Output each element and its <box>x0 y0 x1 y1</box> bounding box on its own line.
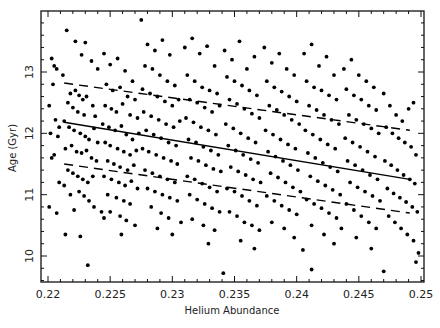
data-point <box>93 114 97 118</box>
data-point <box>325 55 329 59</box>
data-point <box>77 190 81 194</box>
data-point <box>239 239 243 243</box>
data-point <box>310 43 314 47</box>
data-point <box>110 177 114 181</box>
data-point <box>55 211 59 215</box>
y-axis: 10111213 <box>23 23 424 281</box>
data-point <box>295 212 299 216</box>
data-point <box>129 179 133 183</box>
data-point <box>215 92 219 96</box>
data-point <box>318 138 322 142</box>
data-point <box>326 143 330 147</box>
data-point <box>376 177 380 181</box>
data-point <box>230 58 234 62</box>
data-point <box>126 168 130 172</box>
data-point <box>245 67 249 71</box>
data-point <box>75 150 79 154</box>
data-point <box>243 220 247 224</box>
data-point <box>322 113 326 117</box>
data-point <box>167 216 171 220</box>
data-point <box>208 185 212 189</box>
data-point <box>208 89 212 93</box>
data-point <box>292 236 296 240</box>
x-tick-label: 0.23 <box>160 288 185 301</box>
data-point <box>313 156 317 160</box>
data-point <box>254 141 258 145</box>
data-point <box>72 208 76 212</box>
x-tick-label: 0.25 <box>409 288 434 301</box>
data-point <box>148 92 152 96</box>
data-point <box>400 119 404 123</box>
data-point <box>71 106 75 110</box>
data-point <box>276 176 280 180</box>
data-point <box>359 98 363 102</box>
data-point <box>241 153 245 157</box>
data-point <box>50 156 54 160</box>
data-point <box>72 128 76 132</box>
data-point <box>136 187 140 191</box>
data-point <box>258 116 262 120</box>
data-point <box>190 217 194 221</box>
data-point <box>87 138 91 142</box>
data-point <box>294 147 298 151</box>
data-point <box>52 64 56 68</box>
data-point <box>81 177 85 181</box>
data-point <box>317 64 321 68</box>
data-point <box>69 92 73 96</box>
data-point <box>312 85 316 89</box>
data-point <box>66 168 70 172</box>
data-point <box>327 211 331 215</box>
data-point <box>205 44 209 48</box>
data-point <box>387 214 391 218</box>
data-point <box>185 73 189 77</box>
data-point <box>272 199 276 203</box>
data-point <box>221 271 225 275</box>
data-point <box>146 187 150 191</box>
data-point <box>192 120 196 124</box>
data-point <box>116 57 120 61</box>
data-point <box>151 67 155 71</box>
data-point <box>133 223 137 227</box>
data-point <box>282 113 286 117</box>
data-point <box>255 93 259 97</box>
data-point <box>178 119 182 123</box>
data-point <box>311 133 315 137</box>
data-point <box>67 125 71 129</box>
data-point <box>357 73 361 77</box>
data-point <box>177 98 181 102</box>
data-point <box>352 93 356 97</box>
data-point <box>266 150 270 154</box>
data-point <box>403 141 407 145</box>
data-point <box>320 89 324 93</box>
data-point <box>83 41 87 45</box>
data-point <box>64 233 68 237</box>
data-point <box>213 64 217 68</box>
data-point <box>235 214 239 218</box>
data-point <box>382 269 386 273</box>
data-point <box>343 136 347 140</box>
data-point <box>203 106 207 110</box>
data-point <box>282 227 286 231</box>
data-point <box>338 193 342 197</box>
data-point <box>358 145 362 149</box>
data-point <box>258 228 262 232</box>
data-point <box>122 150 126 154</box>
data-point <box>359 214 363 218</box>
data-point <box>124 219 128 223</box>
data-point <box>405 233 409 237</box>
data-point <box>158 73 162 77</box>
data-point <box>302 52 306 56</box>
data-point <box>51 82 55 86</box>
data-point <box>65 28 69 32</box>
data-point <box>82 194 86 198</box>
data-point <box>55 67 59 71</box>
data-point <box>417 251 421 255</box>
data-point <box>188 193 192 197</box>
data-point <box>147 150 151 154</box>
y-tick-label: 10 <box>23 249 36 263</box>
data-point <box>342 67 346 71</box>
data-point <box>332 242 336 246</box>
data-point <box>107 125 111 129</box>
data-point <box>128 202 132 206</box>
data-point <box>373 155 377 159</box>
